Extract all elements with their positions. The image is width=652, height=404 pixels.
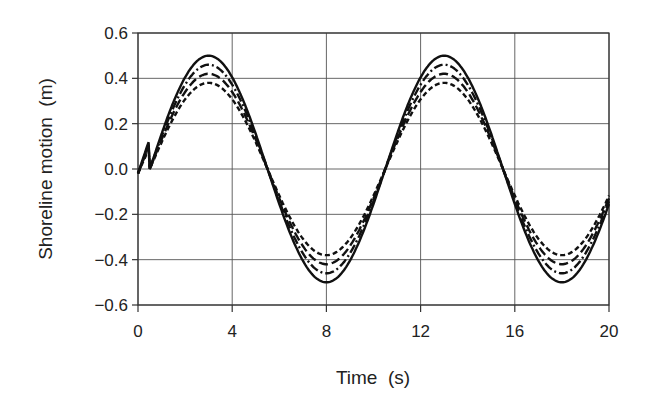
x-tick-label: 16 xyxy=(505,322,524,341)
y-tick-label: 0.4 xyxy=(104,69,128,88)
x-axis-ticks: 048121620 xyxy=(133,305,618,341)
y-tick-label: 0.6 xyxy=(104,24,128,43)
x-tick-label: 4 xyxy=(227,322,236,341)
y-tick-label: 0.2 xyxy=(104,115,128,134)
y-tick-label: −0.6 xyxy=(94,296,128,315)
x-tick-label: 12 xyxy=(411,322,430,341)
shoreline-motion-chart: 0.60.40.20.0−0.2−0.4−0.6 048121620 Time … xyxy=(0,0,652,404)
grid-lines xyxy=(138,33,609,305)
y-tick-label: 0.0 xyxy=(104,160,128,179)
y-tick-label: −0.2 xyxy=(94,205,128,224)
x-tick-label: 0 xyxy=(133,322,142,341)
x-tick-label: 8 xyxy=(322,322,331,341)
y-axis-ticks: 0.60.40.20.0−0.2−0.4−0.6 xyxy=(94,24,138,315)
x-axis-label: Time (s) xyxy=(336,367,410,388)
y-axis-label: Shoreline motion (m) xyxy=(35,78,56,260)
x-tick-label: 20 xyxy=(600,322,619,341)
y-tick-label: −0.4 xyxy=(94,251,128,270)
